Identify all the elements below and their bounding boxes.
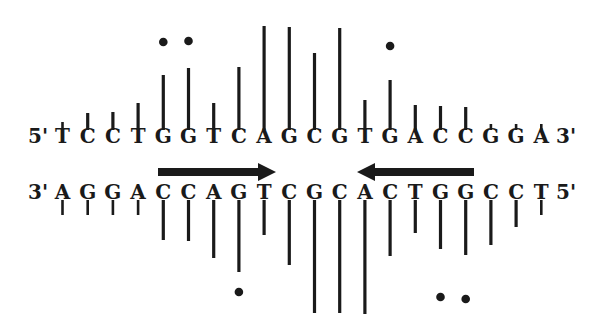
top-base: G — [180, 124, 197, 148]
left-arrow-icon — [357, 163, 474, 181]
top-base: G — [155, 124, 172, 148]
top-base: G — [331, 124, 348, 148]
top-base: C — [458, 124, 474, 148]
top-strand-protection-dots — [159, 37, 394, 51]
top-base: C — [433, 124, 449, 148]
top-strand-sequence: TCCTGGTCAGCGTGACCGGA — [55, 124, 549, 148]
top-base: T — [131, 124, 146, 148]
right-arrow-icon — [158, 163, 276, 181]
top-base: T — [55, 124, 70, 148]
protection-dot — [184, 37, 193, 46]
top-base: A — [533, 124, 550, 148]
top-base: T — [357, 124, 372, 148]
top-base: G — [482, 124, 499, 148]
protection-dot — [159, 38, 168, 47]
top-strand-5prime-label: 5' — [28, 124, 48, 148]
protection-dot — [436, 293, 445, 302]
protection-dot — [235, 288, 244, 297]
top-base: C — [80, 124, 96, 148]
top-strand-cleavage-bars — [63, 26, 542, 130]
bottom-strand-3prime-label: 3' — [28, 180, 48, 204]
bottom-strand-5prime-label: 5' — [556, 180, 576, 204]
top-base: A — [407, 124, 424, 148]
top-base: A — [255, 124, 272, 148]
top-base: G — [382, 124, 399, 148]
top-base: T — [206, 124, 221, 148]
bottom-strand-sequence: AGGACCAGTCGCACTGGCCT — [54, 180, 549, 204]
bottom-strand-cleavage-bars — [63, 200, 542, 314]
protection-dot — [461, 295, 470, 304]
top-base: C — [231, 124, 247, 148]
top-base: C — [307, 124, 323, 148]
palindrome-arrows — [158, 163, 474, 181]
dna-cleavage-diagram: 5' TCCTGGTCAGCGTGACCGGA 3' 3' AGGACCAGTC… — [0, 0, 602, 326]
top-base: G — [508, 124, 525, 148]
top-base: C — [105, 124, 121, 148]
protection-dot — [386, 42, 395, 51]
top-base: G — [281, 124, 298, 148]
bottom-strand-protection-dots — [235, 288, 470, 304]
top-strand-3prime-label: 3' — [556, 124, 576, 148]
